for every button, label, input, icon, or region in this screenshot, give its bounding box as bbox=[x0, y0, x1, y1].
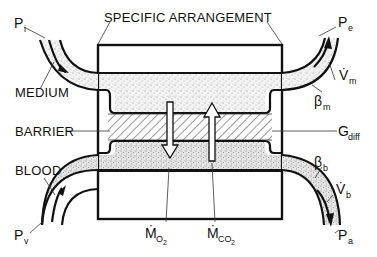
svg-text:P: P bbox=[338, 14, 347, 30]
barrier bbox=[108, 114, 272, 140]
svg-text:Ṁ: Ṁ bbox=[145, 224, 157, 241]
svg-text:P: P bbox=[338, 227, 347, 243]
svg-text:b: b bbox=[346, 190, 351, 200]
symbol-m-o2: Ṁ O 2 bbox=[145, 224, 167, 246]
svg-text:P: P bbox=[14, 227, 23, 243]
symbol-g-diff: G diff bbox=[338, 123, 360, 142]
svg-text:v: v bbox=[24, 236, 29, 246]
symbol-v-b: V̇ b bbox=[336, 181, 351, 200]
svg-text:CO: CO bbox=[218, 234, 232, 244]
barrier-label: BARRIER bbox=[15, 124, 74, 139]
svg-text:O: O bbox=[156, 234, 163, 244]
svg-text:b: b bbox=[323, 163, 328, 173]
svg-text:m: m bbox=[323, 102, 331, 112]
svg-text:diff: diff bbox=[348, 132, 360, 142]
svg-text:e: e bbox=[348, 23, 353, 33]
medium-label: MEDIUM bbox=[15, 85, 69, 100]
svg-text:2: 2 bbox=[163, 239, 167, 246]
title-label: SPECIFIC ARRANGEMENT bbox=[104, 10, 272, 25]
symbol-m-co2: Ṁ CO 2 bbox=[207, 224, 235, 246]
svg-text:a: a bbox=[348, 236, 353, 246]
svg-text:P: P bbox=[14, 15, 23, 31]
medium-inlet-pipe bbox=[40, 40, 98, 90]
svg-text:V̇: V̇ bbox=[336, 181, 346, 197]
symbol-p-i: P i bbox=[14, 15, 26, 34]
svg-text:i: i bbox=[24, 24, 26, 34]
blood-channel bbox=[98, 141, 282, 172]
svg-text:V̇: V̇ bbox=[339, 67, 349, 83]
symbol-p-v: P v bbox=[14, 227, 29, 246]
blood-outlet-pipe bbox=[282, 155, 340, 227]
svg-text:m: m bbox=[349, 76, 357, 86]
symbol-p-e: P e bbox=[338, 14, 353, 33]
svg-text:β: β bbox=[314, 93, 322, 109]
gas-exchange-diagram: SPECIFIC ARRANGEMENT MEDIUM BARRIER BLOO… bbox=[0, 0, 377, 257]
blood-label: BLOOD bbox=[15, 163, 62, 178]
svg-text:2: 2 bbox=[231, 239, 235, 246]
symbol-beta-m: β m bbox=[314, 93, 331, 112]
svg-text:Ṁ: Ṁ bbox=[207, 224, 219, 241]
symbol-p-a: P a bbox=[338, 227, 353, 246]
svg-text:β: β bbox=[314, 154, 322, 170]
medium-channel bbox=[98, 73, 282, 113]
symbol-v-m: V̇ m bbox=[339, 67, 357, 86]
